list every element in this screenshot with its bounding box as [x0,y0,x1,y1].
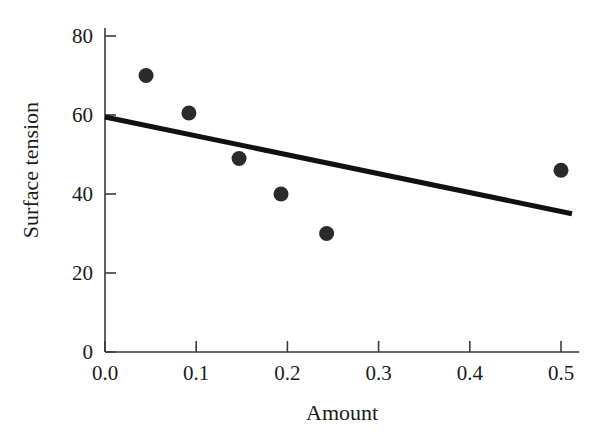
data-point [181,106,196,121]
chart-canvas: 020406080 0.00.10.20.30.40.5 Amount Surf… [0,0,604,435]
x-tick-label: 0.5 [548,361,574,385]
trend-line [105,117,572,214]
data-point [139,68,154,83]
x-tick-label: 0.4 [457,361,484,385]
y-tick-label: 60 [72,103,93,127]
data-series [105,68,572,241]
x-axis-ticks: 0.00.10.20.30.40.5 [92,341,574,385]
data-point [554,163,569,178]
y-axis-title: Surface tension [18,102,43,238]
x-tick-label: 0.2 [274,361,300,385]
y-tick-label: 20 [72,261,93,285]
x-tick-label: 0.0 [92,361,118,385]
x-tick-label: 0.1 [183,361,209,385]
y-tick-label: 80 [72,24,93,48]
data-point [274,187,289,202]
data-point [319,226,334,241]
x-tick-label: 0.3 [365,361,391,385]
y-tick-label: 40 [72,182,93,206]
axes [105,28,579,352]
y-axis-ticks: 020406080 [72,24,116,364]
scatter-plot-figure: 020406080 0.00.10.20.30.40.5 Amount Surf… [0,0,604,435]
data-point [232,151,247,166]
x-axis-title: Amount [306,400,378,425]
